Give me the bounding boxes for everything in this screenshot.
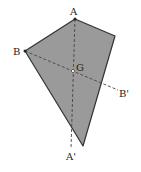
point-a — [74, 18, 77, 21]
label-a-prime: A' — [65, 151, 76, 162]
label-g: G — [76, 62, 84, 73]
label-b: B — [13, 46, 20, 57]
label-b-prime: B' — [119, 88, 129, 99]
label-a: A — [69, 6, 78, 17]
point-b — [24, 50, 27, 53]
shaded-quadrilateral — [25, 19, 115, 146]
geometry-diagram: A B G B' A' — [0, 0, 141, 172]
point-g — [71, 69, 74, 72]
